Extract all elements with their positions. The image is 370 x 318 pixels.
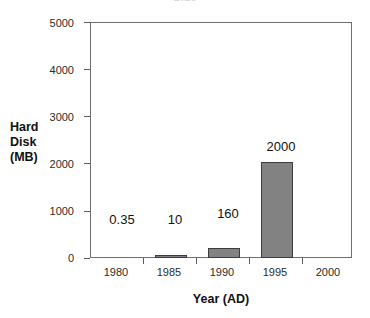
- x-tick-mark-3: [249, 258, 250, 264]
- x-tick-label-1990: 1990: [194, 266, 250, 278]
- y-tick-label-1000: 1000: [0, 206, 74, 217]
- x-tick-mark-4: [302, 258, 303, 264]
- bar-1980[interactable]: [102, 257, 134, 258]
- y-axis: 5000 4000 3000 2000 1000 0: [0, 0, 90, 318]
- y-tick-label-3000: 3000: [0, 112, 74, 123]
- x-tick-label-1985: 1985: [141, 266, 197, 278]
- bar-1990[interactable]: [208, 248, 240, 258]
- x-tick-label-1995: 1995: [247, 266, 303, 278]
- y-tick-label-2000: 2000: [0, 159, 74, 170]
- y-tick-label-4000: 4000: [0, 65, 74, 76]
- x-tick-label-1980: 1980: [88, 266, 144, 278]
- bar-value-1990: 160: [198, 207, 258, 220]
- bar-1985[interactable]: [155, 255, 187, 258]
- x-tick-label-2000: 2000: [300, 266, 356, 278]
- y-tick-label-0: 0: [0, 253, 74, 264]
- y-tick-mark-0: [84, 258, 90, 259]
- x-tick-mark-2: [196, 258, 197, 264]
- x-tick-mark-1: [143, 258, 144, 264]
- bar-value-1995: 2000: [251, 140, 311, 153]
- bar-chart-figure: Size Hard Disk (MB) 5000 4000 3000 2000 …: [0, 0, 370, 318]
- bar-1995[interactable]: [261, 162, 293, 258]
- bar-value-1980: 0.35: [92, 213, 152, 226]
- bar-value-1985: 10: [145, 213, 205, 226]
- y-tick-label-5000: 5000: [0, 18, 74, 29]
- x-axis-title: Year (AD): [90, 292, 352, 306]
